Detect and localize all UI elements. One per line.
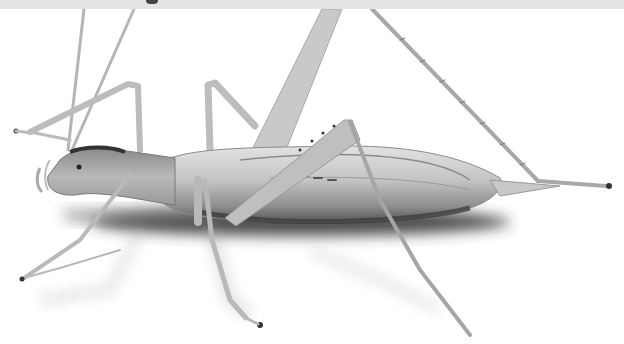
head-thorax bbox=[37, 148, 175, 206]
eye bbox=[77, 165, 82, 170]
middle-legs bbox=[208, 83, 255, 150]
insect-photo bbox=[0, 9, 624, 344]
abdomen bbox=[150, 146, 560, 222]
antennae bbox=[68, 9, 134, 150]
top-gray-band bbox=[0, 0, 624, 9]
shadow bbox=[40, 208, 510, 315]
cut-off-glyph bbox=[146, 0, 158, 4]
